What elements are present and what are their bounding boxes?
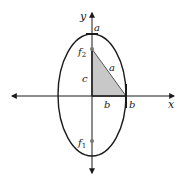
focus-f2 (90, 47, 94, 51)
label-b-inner: b (104, 99, 110, 110)
y-axis-label: y (79, 10, 87, 23)
label-b-outer: b (129, 99, 135, 110)
label-c: c (82, 73, 88, 84)
label-f1: f1 (77, 137, 86, 150)
ellipse-diagram: y x a a c b b f2 f1 (0, 0, 191, 185)
focus-f1 (90, 139, 94, 143)
label-a-hypotenuse: a (109, 62, 115, 73)
label-a-top: a (94, 22, 100, 33)
label-f2: f2 (77, 46, 86, 59)
x-axis-label: x (168, 98, 175, 111)
